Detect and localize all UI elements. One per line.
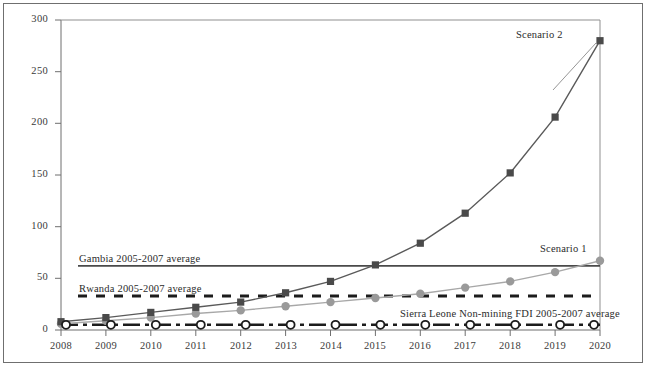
x-tick-label-2018: 2018 — [490, 340, 530, 351]
x-tick-label-2013: 2013 — [266, 340, 306, 351]
x-tick-label-2008: 2008 — [41, 340, 81, 351]
y-axis-ticks — [55, 20, 61, 330]
chart-figure: 300 250 200 150 100 50 0 2008 2009 2010 … — [0, 0, 646, 366]
series-markers-sierra-leone — [62, 321, 598, 329]
x-tick-label-2012: 2012 — [221, 340, 261, 351]
x-tick-label-2011: 2011 — [176, 340, 216, 351]
y-tick-label-300: 300 — [18, 13, 48, 24]
x-tick-label-2016: 2016 — [400, 340, 440, 351]
y-tick-label-0: 0 — [18, 323, 48, 334]
annotation-scenario-1: Scenario 1 — [540, 243, 587, 254]
y-tick-label-50: 50 — [18, 271, 48, 282]
x-tick-label-2020: 2020 — [580, 340, 620, 351]
x-axis-ticks — [61, 330, 600, 336]
y-tick-label-150: 150 — [18, 168, 48, 179]
x-tick-label-2009: 2009 — [86, 340, 126, 351]
annotation-scenario-2: Scenario 2 — [516, 29, 563, 40]
x-tick-label-2017: 2017 — [445, 340, 485, 351]
y-tick-label-100: 100 — [18, 220, 48, 231]
annotation-gambia-average: Gambia 2005-2007 average — [79, 253, 200, 264]
y-tick-label-250: 250 — [18, 65, 48, 76]
y-tick-label-200: 200 — [18, 116, 48, 127]
x-tick-label-2019: 2019 — [535, 340, 575, 351]
x-tick-label-2010: 2010 — [131, 340, 171, 351]
annotation-sierra-leone-average: Sierra Leone Non-mining FDI 2005-2007 av… — [400, 308, 620, 319]
x-tick-label-2014: 2014 — [311, 340, 351, 351]
annotation-rwanda-average: Rwanda 2005-2007 average — [79, 283, 202, 294]
x-tick-label-2015: 2015 — [355, 340, 395, 351]
